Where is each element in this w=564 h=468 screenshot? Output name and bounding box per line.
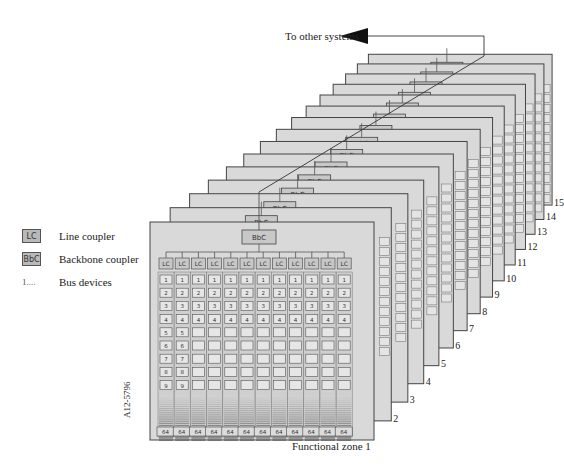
line-coupler-icon: LC (22, 229, 41, 243)
zone-number-label: 10 (506, 273, 516, 284)
svg-text:64: 64 (162, 429, 169, 435)
svg-text:64: 64 (259, 429, 266, 435)
svg-text:LC: LC (227, 260, 235, 267)
zone-number-label: 11 (517, 257, 527, 268)
svg-text:1: 1 (310, 277, 314, 283)
legend: LC Line coupler BbC Backbone coupler 1..… (22, 226, 162, 295)
zone-number-label: 14 (546, 211, 556, 222)
svg-text:2: 2 (213, 290, 217, 296)
svg-text:2: 2 (229, 290, 233, 296)
svg-text:64: 64 (308, 429, 315, 435)
svg-text:3: 3 (229, 303, 233, 309)
svg-text:2: 2 (278, 290, 282, 296)
zone-number-label: 4 (426, 376, 431, 387)
svg-text:4: 4 (261, 317, 265, 323)
svg-text:4: 4 (310, 317, 314, 323)
svg-text:LC: LC (340, 260, 348, 267)
svg-text:4: 4 (213, 317, 217, 323)
legend-item-bus-devices: 1.... Bus devices (22, 272, 162, 292)
zone-number-label: 8 (482, 306, 487, 317)
svg-text:4: 4 (197, 317, 201, 323)
svg-text:64: 64 (275, 429, 282, 435)
svg-text:6: 6 (180, 343, 184, 349)
svg-text:4: 4 (180, 317, 184, 323)
svg-text:4: 4 (229, 317, 233, 323)
svg-text:1: 1 (245, 277, 249, 283)
svg-text:2: 2 (261, 290, 265, 296)
zone-number-label: 13 (537, 226, 547, 237)
svg-text:LC: LC (324, 260, 332, 267)
svg-text:1: 1 (164, 277, 168, 283)
zone-number-label: 2 (393, 413, 398, 424)
legend-item-backbone-coupler: BbC Backbone coupler (22, 249, 162, 269)
svg-text:64: 64 (227, 429, 234, 435)
to-other-systems-label: To other systems (285, 30, 359, 42)
zone-number-label: 5 (441, 358, 446, 369)
svg-text:64: 64 (292, 429, 299, 435)
zone-number-label: 7 (469, 323, 474, 334)
svg-text:7: 7 (164, 356, 168, 362)
svg-text:64: 64 (178, 429, 185, 435)
svg-text:3: 3 (294, 303, 298, 309)
svg-text:64: 64 (340, 429, 347, 435)
svg-text:LC: LC (259, 260, 267, 267)
svg-text:2: 2 (164, 290, 168, 296)
svg-text:4: 4 (245, 317, 249, 323)
svg-text:9: 9 (164, 383, 168, 389)
svg-text:1: 1 (294, 277, 298, 283)
svg-text:1: 1 (342, 277, 346, 283)
svg-text:64: 64 (194, 429, 201, 435)
svg-text:8: 8 (164, 369, 168, 375)
svg-text:2: 2 (245, 290, 249, 296)
svg-text:3: 3 (245, 303, 249, 309)
svg-text:LC: LC (308, 260, 316, 267)
zone-number-label: 3 (410, 394, 415, 405)
svg-text:1: 1 (278, 277, 282, 283)
svg-text:3: 3 (310, 303, 314, 309)
svg-text:1: 1 (326, 277, 330, 283)
svg-text:LC: LC (292, 260, 300, 267)
zone-number-label: 15 (554, 197, 564, 208)
svg-text:3: 3 (326, 303, 330, 309)
svg-text:64: 64 (211, 429, 218, 435)
svg-text:3: 3 (213, 303, 217, 309)
svg-text:8: 8 (180, 369, 184, 375)
svg-text:BbC: BbC (252, 234, 266, 242)
backbone-coupler-icon: BbC (22, 252, 41, 266)
svg-text:4: 4 (342, 317, 346, 323)
svg-text:3: 3 (164, 303, 168, 309)
svg-text:1: 1 (197, 277, 201, 283)
svg-text:3: 3 (278, 303, 282, 309)
figure-id-label: A12-5796 (122, 382, 132, 419)
svg-text:1: 1 (261, 277, 265, 283)
svg-text:2: 2 (180, 290, 184, 296)
legend-label: Line coupler (59, 230, 115, 242)
zone-number-label: 12 (527, 241, 537, 252)
svg-text:4: 4 (164, 317, 168, 323)
svg-text:LC: LC (276, 260, 284, 267)
svg-text:LC: LC (211, 260, 219, 267)
svg-text:2: 2 (197, 290, 201, 296)
legend-item-line-coupler: LC Line coupler (22, 226, 162, 246)
svg-text:2: 2 (310, 290, 314, 296)
legend-label: Backbone coupler (59, 253, 139, 265)
svg-text:5: 5 (164, 330, 168, 336)
bus-device-icon: 1.... (22, 277, 41, 287)
svg-text:3: 3 (197, 303, 201, 309)
svg-text:5: 5 (180, 330, 184, 336)
zone-number-label: 6 (455, 340, 460, 351)
svg-text:3: 3 (342, 303, 346, 309)
legend-label: Bus devices (59, 276, 112, 288)
svg-text:LC: LC (162, 260, 170, 267)
functional-zone-1-label: Functional zone 1 (292, 440, 371, 452)
zone-number-label: 9 (495, 289, 500, 300)
svg-text:64: 64 (243, 429, 250, 435)
svg-text:2: 2 (342, 290, 346, 296)
svg-text:4: 4 (326, 317, 330, 323)
svg-text:LC: LC (195, 260, 203, 267)
svg-text:2: 2 (326, 290, 330, 296)
svg-text:64: 64 (324, 429, 331, 435)
svg-text:LC: LC (243, 260, 251, 267)
svg-text:3: 3 (261, 303, 265, 309)
svg-text:3: 3 (180, 303, 184, 309)
